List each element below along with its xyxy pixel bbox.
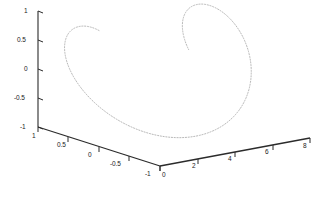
z-tick-label-neg1: -1	[20, 124, 26, 131]
z-tick-label-0_5: 0.5	[17, 37, 26, 44]
helix-curve	[65, 4, 252, 138]
x-axis-ticks	[160, 138, 310, 171]
z-tick-1	[38, 11, 43, 13]
helix-path	[65, 4, 252, 138]
y-tick-label-neg1: -1	[145, 171, 151, 178]
z-tick-label-neg0_5: -0.5	[14, 95, 25, 102]
axis-lines	[38, 11, 310, 166]
y-tick-label-0: 0	[88, 152, 92, 159]
z-tick-0	[38, 69, 43, 71]
x-tick-label-4: 4	[228, 156, 232, 163]
y-tick-label-neg0_5: -0.5	[110, 161, 121, 168]
z-tick-label-1: 1	[24, 8, 28, 15]
y-axis-ticks	[38, 127, 160, 171]
x-tick-label-2: 2	[192, 163, 196, 170]
x-tick-label-6: 6	[265, 149, 269, 156]
y-tick-label-1: 1	[32, 133, 36, 140]
x-tick-label-8: 8	[303, 143, 307, 150]
x-tick-label-0: 0	[162, 172, 166, 179]
figure-canvas: 1 0.5 0 -0.5 -1 1 0.5 0 -0.5 -1 0 2 4 6 …	[0, 0, 324, 201]
z-axis-ticks	[38, 11, 43, 129]
z-tick-neg0_5	[38, 98, 43, 100]
y-tick-label-0_5: 0.5	[57, 142, 66, 149]
z-tick-0_5	[38, 40, 43, 42]
z-tick-label-0: 0	[24, 66, 28, 73]
